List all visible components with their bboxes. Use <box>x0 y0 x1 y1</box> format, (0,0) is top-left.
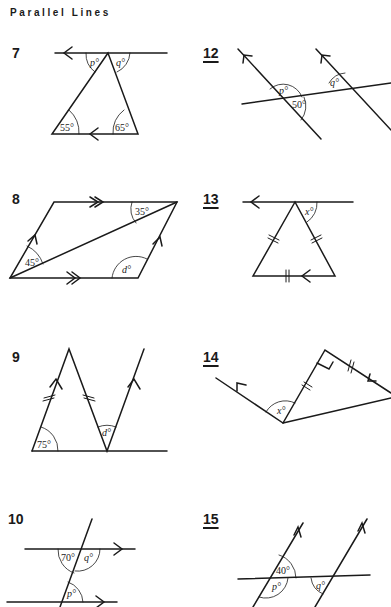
q8-angle-35: 35° <box>135 206 149 217</box>
q10-angle-q: q° <box>84 552 93 563</box>
figure-q9 <box>32 349 167 451</box>
figure-q8 <box>10 197 177 284</box>
q9-angle-d: d° <box>102 427 111 438</box>
q8-angle-d: d° <box>122 264 131 275</box>
q15-angle-q: q° <box>316 580 325 591</box>
q12-angle-50: 50° <box>292 99 306 110</box>
figure-q14 <box>216 350 391 423</box>
q10-angle-70: 70° <box>61 552 75 563</box>
q12-angle-q: q° <box>330 77 339 88</box>
q8-angle-45: 45° <box>25 257 39 268</box>
q7-angle-q: q° <box>116 57 125 68</box>
q15-angle-40: 40° <box>276 565 290 576</box>
q12-angle-p: p° <box>278 85 288 96</box>
q9-angle-75: 75° <box>37 439 51 450</box>
q10-angle-p: p° <box>66 588 76 599</box>
figures-canvas: p° q° 55° 65° p° 50° q° 35° 45° d° x° 75… <box>0 0 391 607</box>
q14-angle-x: x° <box>276 405 285 416</box>
q7-angle-55: 55° <box>60 122 74 133</box>
figure-q12 <box>238 49 391 139</box>
figure-q13 <box>243 196 353 282</box>
q15-angle-p: p° <box>271 581 281 592</box>
q7-angle-65: 65° <box>115 122 129 133</box>
q7-angle-p: p° <box>89 57 99 68</box>
q13-angle-x: x° <box>304 206 313 217</box>
figure-q15 <box>238 519 370 607</box>
